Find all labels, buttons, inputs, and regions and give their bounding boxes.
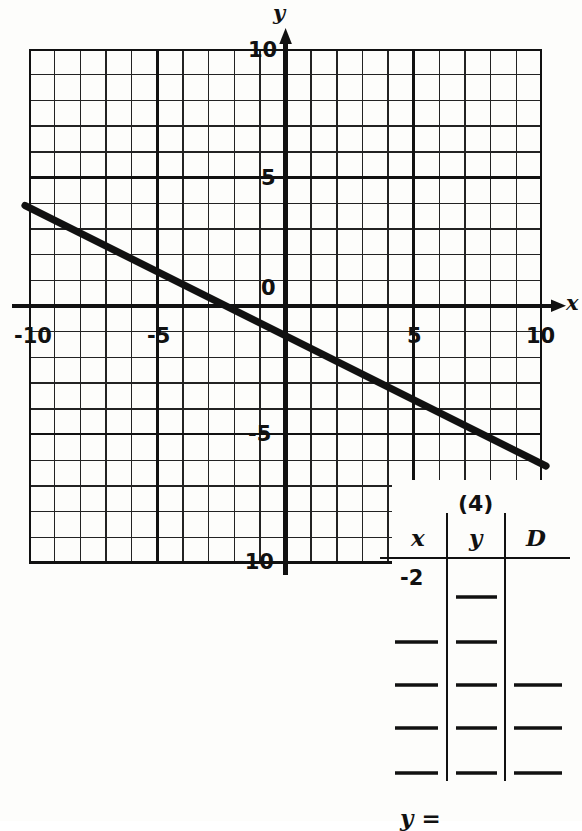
blank-lines-x-column: [395, 642, 438, 773]
table-header-x: x: [411, 526, 425, 549]
table-header-D: D: [526, 526, 546, 549]
table-header-y: y: [469, 526, 482, 549]
blank-lines-y-column: [456, 597, 497, 773]
answer-table: (4) x y D -2: [380, 485, 582, 821]
y-tick-label-0: 0: [261, 278, 276, 299]
y-tick-label-5: 5: [261, 168, 276, 189]
y-axis: [279, 28, 292, 575]
table-cell-x-row1: -2: [400, 568, 423, 589]
y-tick-label-neg5: -5: [248, 424, 271, 445]
y-tick-label-10: 10: [248, 40, 277, 61]
x-tick-label-neg10: -10: [14, 326, 52, 347]
x-tick-label-5: 5: [407, 326, 422, 347]
table-number-label: (4): [458, 493, 493, 515]
y-tick-label-neg10: -10: [236, 552, 274, 573]
x-axis: [12, 300, 566, 313]
x-axis-name: x: [566, 292, 579, 313]
blank-lines-D-column: [514, 685, 562, 773]
equation-equals: =: [421, 804, 440, 831]
x-tick-label-10: 10: [526, 326, 555, 347]
equation-variable: y: [400, 804, 413, 831]
x-tick-label-neg5: -5: [147, 326, 170, 347]
y-axis-name: y: [273, 2, 285, 23]
equation-prompt: y =: [400, 806, 441, 829]
